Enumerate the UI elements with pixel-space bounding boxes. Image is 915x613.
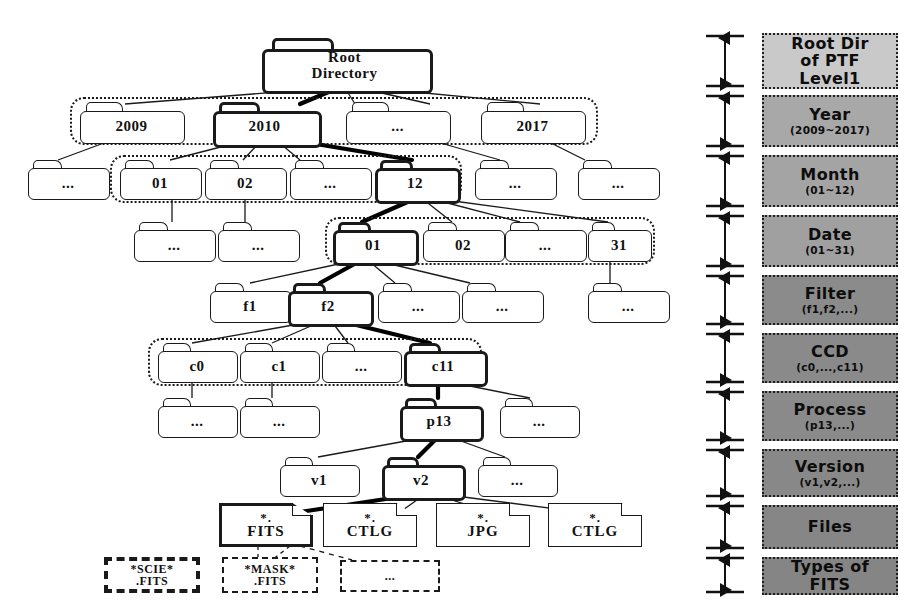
folder-label: ...: [478, 465, 556, 495]
folder-node-year-ellipsis[interactable]: ...: [346, 102, 449, 142]
folder-node-ccd-ellipsis[interactable]: ...: [322, 343, 400, 381]
folder-label: ...: [462, 291, 542, 321]
folder-label: ...: [218, 230, 298, 260]
root-label-line1: Root: [328, 50, 361, 66]
legend-title-line3: Level1: [799, 70, 860, 88]
folder-node-date-outside-left1[interactable]: ...: [134, 222, 214, 260]
folder-label: ...: [158, 406, 236, 436]
fits-type-ellipsis[interactable]: ...: [340, 560, 440, 592]
legend-title: CCD: [811, 343, 849, 361]
folder-label: ...: [578, 168, 658, 198]
folder-node-month-12[interactable]: 12: [375, 160, 455, 198]
file-node-ctlg-1[interactable]: *. CTLG: [323, 503, 417, 547]
folder-node-version-v1[interactable]: v1: [280, 457, 358, 495]
file-label-line2: JPG: [467, 524, 498, 539]
legend-subtitle: (v1,v2,...): [799, 476, 860, 488]
folder-node-month-02[interactable]: 02: [205, 160, 285, 198]
folder-label: 2017: [481, 111, 584, 142]
folder-label: ...: [290, 168, 370, 198]
diagram-canvas: Root Directory 2009 2010 ... 2017 ... 01…: [0, 0, 915, 613]
folder-node-date-outside-left2[interactable]: ...: [218, 222, 298, 260]
file-label: *. CTLG: [548, 503, 642, 547]
legend-title: Files: [808, 518, 852, 536]
fits-type-line2: .FITS: [254, 575, 286, 587]
folder-label: ...: [322, 351, 400, 381]
folder-node-filter-f1[interactable]: f1: [210, 283, 290, 321]
file-label: *. FITS: [219, 503, 313, 547]
file-label-line2: CTLG: [347, 524, 394, 539]
file-node-ctlg-2[interactable]: *. CTLG: [548, 503, 642, 547]
folder-node-filter-ellipsis1[interactable]: ...: [378, 283, 458, 321]
folder-node-version-v2[interactable]: v2: [382, 457, 460, 495]
folder-label: ...: [28, 168, 108, 198]
file-label-line1: *.: [589, 511, 601, 524]
folder-label: 31: [588, 230, 650, 260]
folder-label: 01: [120, 168, 200, 198]
legend-title-line2: FITS: [810, 576, 851, 594]
file-label: *. CTLG: [323, 503, 417, 547]
folder-node-date-ellipsis[interactable]: ...: [505, 222, 585, 260]
fits-type-mask[interactable]: *MASK* .FITS: [222, 557, 318, 593]
folder-label: v2: [382, 465, 460, 495]
file-label-line1: *.: [364, 511, 376, 524]
legend-level-types-of-fits: Types of FITS: [762, 557, 898, 595]
legend-title: Year: [809, 106, 850, 124]
folder-node-filter-ellipsis3[interactable]: ...: [588, 283, 668, 321]
folder-label: Root Directory: [262, 44, 427, 88]
folder-node-process-ellipsis1[interactable]: ...: [158, 398, 236, 436]
legend-level-date: Date (01~31): [762, 215, 898, 267]
legend-level-filter: Filter (f1,f2,...): [762, 275, 898, 325]
folder-node-date-01[interactable]: 01: [333, 222, 413, 260]
legend-title-line2: of PTF: [800, 52, 860, 70]
folder-node-ccd-c0[interactable]: c0: [158, 343, 236, 381]
folder-node-date-31[interactable]: 31: [588, 222, 650, 260]
folder-node-root[interactable]: Root Directory: [262, 38, 427, 88]
file-label-line2: FITS: [247, 524, 284, 539]
legend-title: Date: [808, 226, 852, 244]
folder-node-month-outside-left[interactable]: ...: [28, 160, 108, 198]
root-label-line2: Directory: [312, 66, 378, 82]
legend-level-process: Process (p13,...): [762, 391, 898, 441]
folder-label: ...: [500, 406, 578, 436]
legend-level-year: Year (2009~2017): [762, 95, 898, 147]
folder-node-month-ellipsis[interactable]: ...: [290, 160, 370, 198]
file-node-fits[interactable]: *. FITS: [219, 503, 313, 547]
legend-level-version: Version (v1,v2,...): [762, 449, 898, 497]
folder-label: ...: [378, 291, 458, 321]
legend-subtitle: (f1,f2,...): [802, 303, 859, 315]
fits-type-scie[interactable]: *SCIE* .FITS: [104, 557, 200, 593]
folder-label: p13: [400, 406, 478, 436]
legend-level-month: Month (01~12): [762, 155, 898, 207]
folder-label: 2009: [80, 111, 183, 142]
folder-node-date-02[interactable]: 02: [423, 222, 503, 260]
folder-label: 02: [205, 168, 285, 198]
folder-label: c1: [240, 351, 318, 381]
folder-label: f2: [288, 291, 368, 321]
file-label-line1: *.: [260, 511, 272, 524]
folder-node-2009[interactable]: 2009: [80, 102, 183, 142]
folder-node-filter-f2[interactable]: f2: [288, 283, 368, 321]
folder-label: 12: [375, 168, 455, 198]
file-node-jpg[interactable]: *. JPG: [436, 503, 530, 547]
folder-node-2010[interactable]: 2010: [213, 102, 316, 142]
folder-node-month-outside-right1[interactable]: ...: [475, 160, 555, 198]
folder-node-filter-ellipsis2[interactable]: ...: [462, 283, 542, 321]
folder-label: 01: [333, 230, 413, 260]
file-label: *. JPG: [436, 503, 530, 547]
legend-title: Process: [794, 401, 867, 419]
folder-node-month-01[interactable]: 01: [120, 160, 200, 198]
folder-node-process-ellipsis2[interactable]: ...: [240, 398, 318, 436]
folder-node-ccd-c1[interactable]: c1: [240, 343, 318, 381]
folder-node-process-ellipsis3[interactable]: ...: [500, 398, 578, 436]
folder-label: ...: [134, 230, 214, 260]
legend-title: Version: [795, 458, 865, 476]
folder-node-ccd-c11[interactable]: c11: [404, 343, 482, 381]
legend-level-ccd: CCD (c0,...,c11): [762, 333, 898, 383]
legend-level-files: Files: [762, 505, 898, 549]
folder-node-month-outside-right2[interactable]: ...: [578, 160, 658, 198]
folder-label: ...: [240, 406, 318, 436]
folder-node-process-p13[interactable]: p13: [400, 398, 478, 436]
folder-node-2017[interactable]: 2017: [481, 102, 584, 142]
folder-label: ...: [505, 230, 585, 260]
folder-node-version-ellipsis[interactable]: ...: [478, 457, 556, 495]
